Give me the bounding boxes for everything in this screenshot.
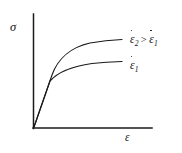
dot-accent-icon — [131, 56, 133, 58]
dot-accent-icon — [150, 30, 152, 32]
curve-low-strain-rate — [34, 62, 122, 128]
subscript-1: 1 — [135, 65, 139, 74]
plot-canvas — [0, 0, 182, 153]
epsilon-glyph: ε — [130, 33, 135, 45]
epsilon-glyph: ε — [130, 59, 135, 71]
curve-label-high-strain-rate: ε2>ε1 — [130, 30, 158, 46]
stress-strain-figure: σ ε ε2>ε1 ε1 — [0, 0, 182, 153]
epsilon-dot-symbol-1: ε — [130, 60, 135, 72]
curve-label-low-strain-rate: ε1 — [130, 56, 138, 72]
dot-accent-icon — [131, 30, 133, 32]
subscript-1: 1 — [154, 39, 158, 48]
y-axis-label-sigma: σ — [10, 21, 16, 34]
curve-high-strain-rate — [34, 40, 122, 128]
greater-than-operator: > — [138, 34, 149, 45]
x-axis-label-epsilon: ε — [125, 132, 130, 144]
epsilon-dot-symbol-2: ε — [130, 34, 135, 46]
